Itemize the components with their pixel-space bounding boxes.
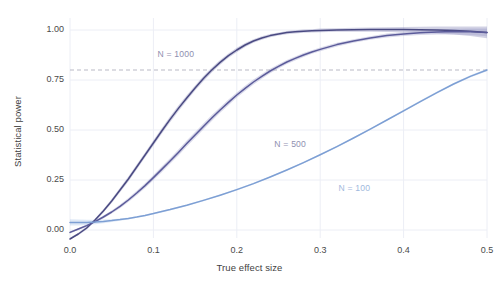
power-curve-chart: Statistical power True effect size 0.000… [0,0,499,281]
series-label-1: N = 500 [274,139,306,149]
confidence-bands [70,26,487,238]
series-curves [70,30,487,239]
band-1 [70,29,487,234]
x-tick-1: 0.1 [136,245,170,255]
series-label-0: N = 1000 [158,49,195,59]
curve-0 [70,30,487,239]
y-tick-1: 0.25 [30,174,64,184]
y-tick-4: 1.00 [30,24,64,34]
x-tick-5: 0.5 [470,245,499,255]
band-0 [70,26,487,238]
x-tick-0: 0.0 [53,245,87,255]
y-tick-2: 0.50 [30,124,64,134]
y-axis-title: Statistical power [12,82,23,182]
x-tick-3: 0.3 [303,245,337,255]
series-label-2: N = 100 [339,183,371,193]
x-axis-title: True effect size [0,262,499,273]
gridlines [70,18,487,238]
plot-canvas [0,0,499,281]
curve-1 [70,32,487,233]
y-tick-0: 0.00 [30,224,64,234]
x-tick-2: 0.2 [220,245,254,255]
y-tick-3: 0.75 [30,74,64,84]
x-tick-4: 0.4 [387,245,421,255]
